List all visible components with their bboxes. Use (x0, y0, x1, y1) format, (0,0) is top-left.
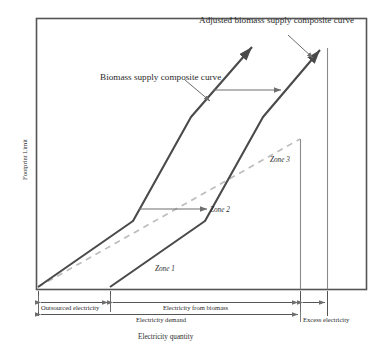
y-axis-label: Footprint Limit (22, 139, 29, 180)
plot-frame (37, 19, 367, 290)
biomass-curve-annotation-label: Biomass supply composite curve (100, 73, 221, 82)
x-span-label-from-biomass: Electricity from biomass (163, 305, 228, 312)
x-span-label-demand: Electricity demand (136, 317, 186, 324)
zone-1-label: Zone 1 (155, 266, 175, 273)
x-span-label-outsourced: Outsourced electricity (41, 305, 99, 312)
adjusted-curve-annotation-label: Adjusted biomass supply composite curve (199, 16, 354, 25)
zone-3-label: Zone 3 (270, 157, 290, 164)
x-span-label-excess: Excess electricity (303, 317, 349, 324)
x-axis-label: Electricity quantity (138, 334, 193, 341)
zone-2-label: Zone 2 (210, 207, 230, 214)
figure-canvas: Adjusted biomass supply composite curve … (0, 0, 382, 352)
schematic-diagram (0, 0, 382, 352)
